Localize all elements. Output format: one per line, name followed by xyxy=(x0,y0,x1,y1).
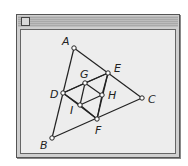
label-F: F xyxy=(95,124,102,137)
point-G[interactable] xyxy=(83,81,87,85)
label-D: D xyxy=(50,88,58,101)
label-E: E xyxy=(114,62,121,75)
point-H[interactable] xyxy=(100,93,104,97)
label-G: G xyxy=(80,68,89,81)
label-C: C xyxy=(148,93,156,106)
point-C[interactable] xyxy=(140,96,144,100)
triangle-diagram: AECDGHIFB xyxy=(0,0,188,166)
label-A: A xyxy=(61,35,70,48)
label-B: B xyxy=(40,139,48,152)
point-A[interactable] xyxy=(72,46,76,50)
segment-GI xyxy=(80,83,85,105)
label-I: I xyxy=(70,104,73,117)
point-D[interactable] xyxy=(61,91,65,95)
segment-GH xyxy=(85,83,102,95)
point-F[interactable] xyxy=(95,117,99,121)
segment-HF xyxy=(97,95,102,119)
label-H: H xyxy=(108,89,116,102)
point-E[interactable] xyxy=(106,71,110,75)
point-I[interactable] xyxy=(78,103,82,107)
segment-HI xyxy=(80,95,102,105)
segment-IF xyxy=(80,105,97,119)
segment-DG xyxy=(63,83,85,93)
point-B[interactable] xyxy=(50,136,54,140)
